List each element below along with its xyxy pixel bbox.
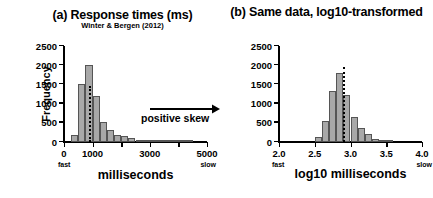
median-line-a bbox=[89, 86, 91, 142]
x-axis-left-end-label-b: fast bbox=[272, 161, 284, 168]
y-tick-a bbox=[59, 83, 64, 84]
histogram-bar bbox=[121, 136, 128, 142]
histogram-bar bbox=[322, 121, 329, 143]
y-tick-label-a: 1500 bbox=[36, 80, 57, 90]
x-axis-title-a: milliseconds bbox=[98, 168, 174, 182]
x-tick-b bbox=[279, 142, 280, 147]
x-tick-label-b: 2.5 bbox=[308, 149, 321, 159]
panel-log-transformed: (b) Same data, log10-transformed log10 m… bbox=[216, 0, 433, 198]
y-tick-b bbox=[274, 83, 279, 84]
y-tick-label-a: 0 bbox=[52, 137, 57, 147]
y-tick-label-b: 500 bbox=[256, 118, 272, 128]
y-axis-line-b bbox=[278, 46, 280, 142]
x-tick-label-a: 3000 bbox=[139, 149, 160, 159]
x-tick-b bbox=[315, 142, 316, 147]
panel-b-title: (b) Same data, log10-transformed bbox=[216, 5, 433, 19]
y-tick-label-b: 2000 bbox=[251, 60, 272, 70]
y-tick-a bbox=[59, 45, 64, 46]
x-axis-right-end-label-a: slow bbox=[200, 161, 216, 168]
panel-response-times: (a) Response times (ms) Winter & Bergen … bbox=[0, 0, 217, 198]
plot-area-b: log10 milliseconds fast slow 05001000150… bbox=[279, 46, 422, 142]
y-tick-label-a: 2000 bbox=[36, 60, 57, 70]
y-tick-label-b: 1000 bbox=[251, 99, 272, 109]
x-axis-title-b: log10 milliseconds bbox=[295, 167, 407, 181]
panel-a-subtitle: Winter & Bergen (2012) bbox=[0, 21, 217, 30]
y-axis-title-a: Frequency bbox=[40, 66, 52, 122]
histogram-bar bbox=[136, 140, 143, 142]
histogram-bar bbox=[164, 140, 171, 142]
x-tick-a bbox=[178, 142, 179, 147]
histogram-bar bbox=[150, 140, 157, 142]
x-tick-label-b: 3.0 bbox=[344, 149, 357, 159]
plot-area-a: Frequency milliseconds fast slow 0500100… bbox=[64, 46, 207, 142]
x-tick-label-b: 3.5 bbox=[380, 149, 393, 159]
median-line-b bbox=[343, 67, 345, 142]
x-axis-right-end-label-b: slow bbox=[416, 161, 432, 168]
histogram-bar bbox=[358, 128, 365, 142]
histogram-bar bbox=[157, 140, 164, 142]
x-tick-a bbox=[93, 142, 94, 147]
x-tick-label-b: 4.0 bbox=[415, 149, 428, 159]
y-tick-label-a: 2500 bbox=[36, 41, 57, 51]
x-tick-b bbox=[422, 142, 423, 147]
positive-skew-arrow bbox=[150, 100, 220, 110]
histogram-bar bbox=[71, 135, 78, 142]
x-tick-a bbox=[150, 142, 151, 147]
histogram-bar bbox=[186, 140, 193, 142]
positive-skew-label: positive skew bbox=[141, 112, 209, 124]
histogram-bar bbox=[365, 134, 372, 142]
histogram-bar bbox=[379, 140, 386, 142]
histogram-bar bbox=[93, 96, 100, 142]
x-tick-b bbox=[386, 142, 387, 147]
histogram-bar bbox=[100, 122, 107, 142]
y-tick-b bbox=[274, 102, 279, 103]
histogram-bar bbox=[372, 139, 379, 142]
figure-container: (a) Response times (ms) Winter & Bergen … bbox=[0, 0, 433, 198]
panel-a-title: (a) Response times (ms) bbox=[0, 8, 217, 22]
x-axis-left-end-label-a: fast bbox=[58, 161, 70, 168]
histogram-bar bbox=[114, 135, 121, 142]
histogram-bar bbox=[329, 91, 336, 142]
x-tick-a bbox=[64, 142, 65, 147]
histogram-bar bbox=[315, 137, 322, 142]
y-tick-label-a: 500 bbox=[41, 118, 57, 128]
histogram-bar bbox=[386, 140, 393, 142]
x-tick-label-a: 1000 bbox=[82, 149, 103, 159]
histogram-bar bbox=[107, 130, 114, 142]
y-axis-line-a bbox=[63, 46, 65, 142]
y-tick-label-a: 1000 bbox=[36, 99, 57, 109]
histogram-bar bbox=[143, 140, 150, 142]
y-tick-label-b: 0 bbox=[267, 137, 272, 147]
x-tick-label-a: 0 bbox=[61, 149, 66, 159]
histogram-bar bbox=[351, 117, 358, 142]
x-tick-a bbox=[207, 142, 208, 147]
histogram-bar bbox=[171, 140, 178, 142]
x-tick-label-b: 2.0 bbox=[272, 149, 285, 159]
x-tick-a bbox=[121, 142, 122, 147]
y-tick-b bbox=[274, 64, 279, 65]
x-tick-label-a: 5000 bbox=[196, 149, 217, 159]
histogram-bar bbox=[128, 138, 135, 142]
histogram-bar bbox=[178, 140, 185, 142]
histogram-bar bbox=[78, 84, 85, 142]
y-tick-label-b: 1500 bbox=[251, 80, 272, 90]
y-tick-b bbox=[274, 45, 279, 46]
y-tick-a bbox=[59, 64, 64, 65]
y-tick-label-b: 2500 bbox=[251, 41, 272, 51]
y-tick-a bbox=[59, 121, 64, 122]
x-tick-b bbox=[351, 142, 352, 147]
y-tick-b bbox=[274, 121, 279, 122]
y-tick-a bbox=[59, 102, 64, 103]
